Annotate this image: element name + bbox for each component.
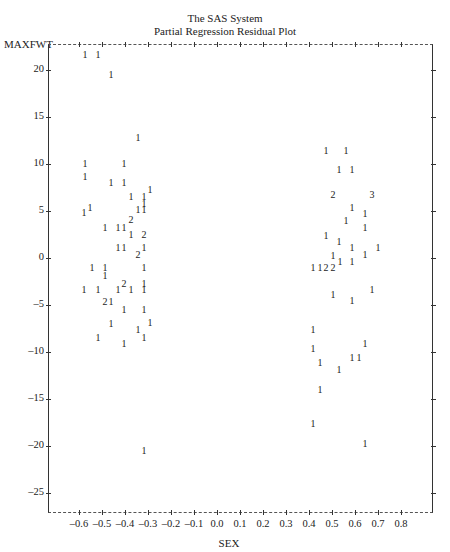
- data-point: 1: [96, 285, 101, 295]
- data-point: 1: [318, 263, 323, 273]
- data-point: 1: [350, 203, 355, 213]
- x-tick-mark: [194, 42, 195, 47]
- data-point: 1: [122, 178, 127, 188]
- data-point: 1: [370, 285, 375, 295]
- x-tick-mark: [148, 510, 149, 515]
- data-point: 1: [318, 385, 323, 395]
- data-point: 1: [148, 185, 153, 195]
- y-tick-label: 0: [8, 251, 44, 262]
- data-point: 1: [122, 305, 127, 315]
- data-point: 1: [142, 243, 147, 253]
- y-tick-label: –10: [8, 345, 44, 356]
- data-point: 1: [136, 205, 141, 215]
- data-point: 1: [128, 285, 133, 295]
- data-point: 1: [324, 231, 329, 241]
- data-point: 1: [142, 285, 147, 295]
- x-tick-mark: [355, 510, 356, 515]
- y-tick-mark: [46, 305, 51, 306]
- data-point: 1: [122, 159, 127, 169]
- data-point: 1: [336, 365, 341, 375]
- data-point: 1: [108, 178, 113, 188]
- data-point: 1: [356, 353, 361, 363]
- data-point: 1: [350, 353, 355, 363]
- data-point: 1: [310, 419, 315, 429]
- data-point: 1: [116, 223, 121, 233]
- data-point: 1: [142, 446, 147, 456]
- x-tick-mark: [332, 510, 333, 515]
- data-point: 1: [362, 209, 367, 219]
- data-point: 2: [128, 215, 133, 225]
- x-tick-mark: [309, 510, 310, 515]
- y-tick-mark: [431, 211, 436, 212]
- x-tick-mark: [217, 42, 218, 47]
- data-point: 1: [128, 192, 133, 202]
- data-point: 1: [122, 223, 127, 233]
- x-tick-mark: [194, 510, 195, 515]
- x-tick-mark: [378, 510, 379, 515]
- data-point: 1: [82, 285, 87, 295]
- data-point: 1: [82, 208, 87, 218]
- y-tick-label: –5: [8, 298, 44, 309]
- data-point: 1: [116, 285, 121, 295]
- y-tick-mark: [46, 117, 51, 118]
- data-point: 1: [122, 243, 127, 253]
- data-point: 1: [362, 250, 367, 260]
- data-point: 1: [116, 243, 121, 253]
- x-tick-mark: [125, 42, 126, 47]
- data-point: 1: [142, 305, 147, 315]
- data-point: 2: [330, 190, 335, 200]
- data-point: 1: [108, 319, 113, 329]
- x-tick-mark: [102, 510, 103, 515]
- data-point: 1: [344, 216, 349, 226]
- x-tick-mark: [217, 510, 218, 515]
- data-point: 1: [362, 339, 367, 349]
- data-point: 1: [82, 172, 87, 182]
- x-tick-mark: [309, 42, 310, 47]
- data-point: 1: [102, 223, 107, 233]
- y-tick-label: –20: [8, 439, 44, 450]
- data-point: 1: [336, 165, 341, 175]
- data-point: 2: [136, 250, 141, 260]
- x-tick-mark: [148, 42, 149, 47]
- data-point: 1: [122, 339, 127, 349]
- y-tick-mark: [431, 446, 436, 447]
- data-point: 1: [136, 133, 141, 143]
- data-point: 1: [362, 439, 367, 449]
- y-tick-label: –15: [8, 392, 44, 403]
- y-tick-mark: [46, 164, 51, 165]
- x-tick-mark: [240, 42, 241, 47]
- y-tick-label: 5: [8, 204, 44, 215]
- x-tick-mark: [171, 42, 172, 47]
- x-tick-mark: [401, 510, 402, 515]
- data-point: 2: [102, 297, 107, 307]
- x-tick-mark: [401, 42, 402, 47]
- x-tick-label: 0.8: [386, 518, 416, 529]
- data-point: 1: [318, 358, 323, 368]
- data-point: 1: [310, 344, 315, 354]
- data-point: 1: [330, 251, 335, 261]
- y-tick-mark: [431, 305, 436, 306]
- y-tick-label: 15: [8, 110, 44, 121]
- y-tick-mark: [46, 352, 51, 353]
- data-point: 1: [142, 333, 147, 343]
- data-point: 3: [370, 190, 375, 200]
- y-tick-label: –25: [8, 486, 44, 497]
- data-point: 1: [108, 297, 113, 307]
- y-tick-label: 10: [8, 157, 44, 168]
- data-point: 1: [96, 50, 101, 60]
- x-axis-label: SEX: [0, 537, 450, 549]
- data-point: 1: [344, 146, 349, 156]
- data-point: 1: [102, 271, 107, 281]
- data-point: 1: [350, 165, 355, 175]
- data-point: 2: [330, 263, 335, 273]
- data-point: 1: [376, 243, 381, 253]
- y-tick-mark: [46, 258, 51, 259]
- data-point: 1: [136, 325, 141, 335]
- data-point: 1: [142, 263, 147, 273]
- data-point: 1: [330, 290, 335, 300]
- y-tick-mark: [46, 211, 51, 212]
- y-tick-mark: [431, 70, 436, 71]
- y-tick-mark: [431, 117, 436, 118]
- y-tick-mark: [431, 164, 436, 165]
- data-point: 1: [338, 257, 343, 267]
